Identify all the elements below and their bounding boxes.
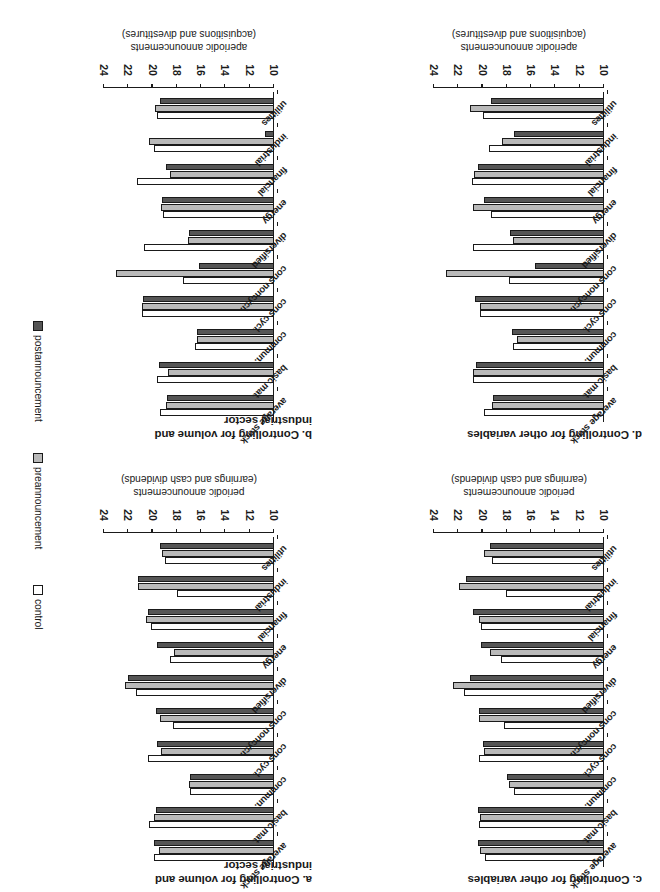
bar-control	[492, 557, 604, 564]
bar-postannouncement	[481, 642, 604, 649]
value-tick	[249, 529, 250, 533]
value-tick	[200, 84, 201, 88]
bar-postannouncement	[490, 543, 604, 550]
category-label: basic mat.	[612, 363, 620, 371]
bar-control	[170, 656, 274, 663]
bar-postannouncement	[138, 576, 274, 583]
bar-control	[464, 689, 604, 696]
bar-group	[434, 92, 604, 125]
bar-group	[434, 603, 604, 636]
bar-group	[434, 834, 604, 867]
panel-title-d: d. Controlling for other variables	[342, 428, 642, 442]
category-label: basic mat.	[282, 808, 290, 816]
value-tick	[273, 84, 274, 88]
category-tick	[277, 634, 278, 638]
category-label: financial	[612, 610, 620, 618]
bar-group	[104, 768, 274, 801]
bar-group	[434, 537, 604, 570]
bar-postannouncement	[266, 131, 275, 138]
bar-control	[514, 788, 604, 795]
value-tick-label: 12	[244, 504, 256, 526]
bar-control	[504, 722, 604, 729]
value-tick-label: 18	[501, 504, 513, 526]
bar-control	[154, 145, 274, 152]
category-label: cons cycl.	[612, 742, 620, 750]
category-tick	[277, 354, 278, 358]
category-label: basic mat.	[612, 808, 620, 816]
bar-preannouncement	[470, 105, 604, 112]
panel-title-line: d. Controlling for other variables	[342, 428, 642, 442]
category-tick	[607, 222, 608, 226]
category-tick	[607, 255, 608, 259]
bar-preannouncement	[509, 781, 604, 788]
bar-group	[434, 158, 604, 191]
category-tick	[277, 568, 278, 572]
value-tick-label: 16	[525, 504, 537, 526]
category-tick	[607, 321, 608, 325]
bar-group	[104, 537, 274, 570]
legend-label: preannouncement	[33, 467, 44, 549]
category-tick	[607, 700, 608, 704]
bar-control	[148, 755, 274, 762]
category-label: diversified	[282, 676, 290, 684]
value-tick-label: 10	[598, 504, 610, 526]
legend-item-postannouncement: postannouncement	[30, 321, 48, 422]
category-label: financial	[282, 610, 290, 618]
value-tick-label: 10	[268, 59, 280, 81]
axis-title-a: periodic announcements(earnings and cash…	[94, 473, 284, 499]
value-tick	[530, 84, 531, 88]
value-tick	[200, 529, 201, 533]
category-label: commun.	[612, 330, 620, 338]
bar-preannouncement	[170, 171, 274, 178]
category-tick	[277, 733, 278, 737]
value-tick-label: 16	[195, 59, 207, 81]
bar-control	[484, 409, 604, 416]
category-label: commun.	[282, 775, 290, 783]
value-tick	[530, 529, 531, 533]
panel-title-line: a. Controlling for volume and	[12, 873, 312, 887]
bar-postannouncement	[511, 230, 605, 237]
axis-title-line: (earnings and cash dividends)	[424, 473, 614, 486]
bar-postannouncement	[189, 230, 274, 237]
category-tick	[277, 387, 278, 391]
category-label: commun.	[282, 330, 290, 338]
bar-preannouncement	[460, 583, 605, 590]
bar-preannouncement	[480, 847, 604, 854]
bar-postannouncement	[466, 576, 604, 583]
bar-group	[434, 191, 604, 224]
bar-preannouncement	[446, 270, 604, 277]
value-tick	[176, 84, 177, 88]
plot-area-a: average stockbasic mat.commun.cons cycl.…	[104, 537, 274, 867]
value-tick-label: 22	[452, 504, 464, 526]
value-tick	[224, 529, 225, 533]
bar-control	[144, 244, 274, 251]
bar-group	[434, 257, 604, 290]
bar-group	[434, 224, 604, 257]
bar-group	[434, 636, 604, 669]
bar-control	[177, 590, 274, 597]
value-tick-label: 18	[171, 59, 183, 81]
category-tick	[607, 288, 608, 292]
bar-preannouncement	[138, 583, 274, 590]
category-tick	[277, 288, 278, 292]
category-tick	[277, 601, 278, 605]
bar-control	[157, 112, 274, 119]
bar-group	[104, 257, 274, 290]
bar-group	[104, 323, 274, 356]
panel-a: average stockbasic mat.commun.cons cycl.…	[0, 440, 330, 885]
value-tick-label: 16	[525, 59, 537, 81]
bar-control	[183, 277, 274, 284]
panel-title-a: a. Controlling for volume andindustrial …	[12, 859, 312, 887]
bar-group	[104, 158, 274, 191]
legend-label: postannouncement	[33, 335, 44, 422]
value-tick-label: 14	[549, 59, 561, 81]
bar-preannouncement	[517, 336, 604, 343]
bar-group	[434, 702, 604, 735]
bar-control	[149, 821, 274, 828]
bar-control	[489, 145, 604, 152]
category-label: diversified	[282, 231, 290, 239]
axis-title-line: (acquisitions and divestitures)	[94, 28, 284, 41]
category-label: industrial	[612, 132, 620, 140]
bar-group	[434, 389, 604, 422]
value-tick	[603, 529, 604, 533]
